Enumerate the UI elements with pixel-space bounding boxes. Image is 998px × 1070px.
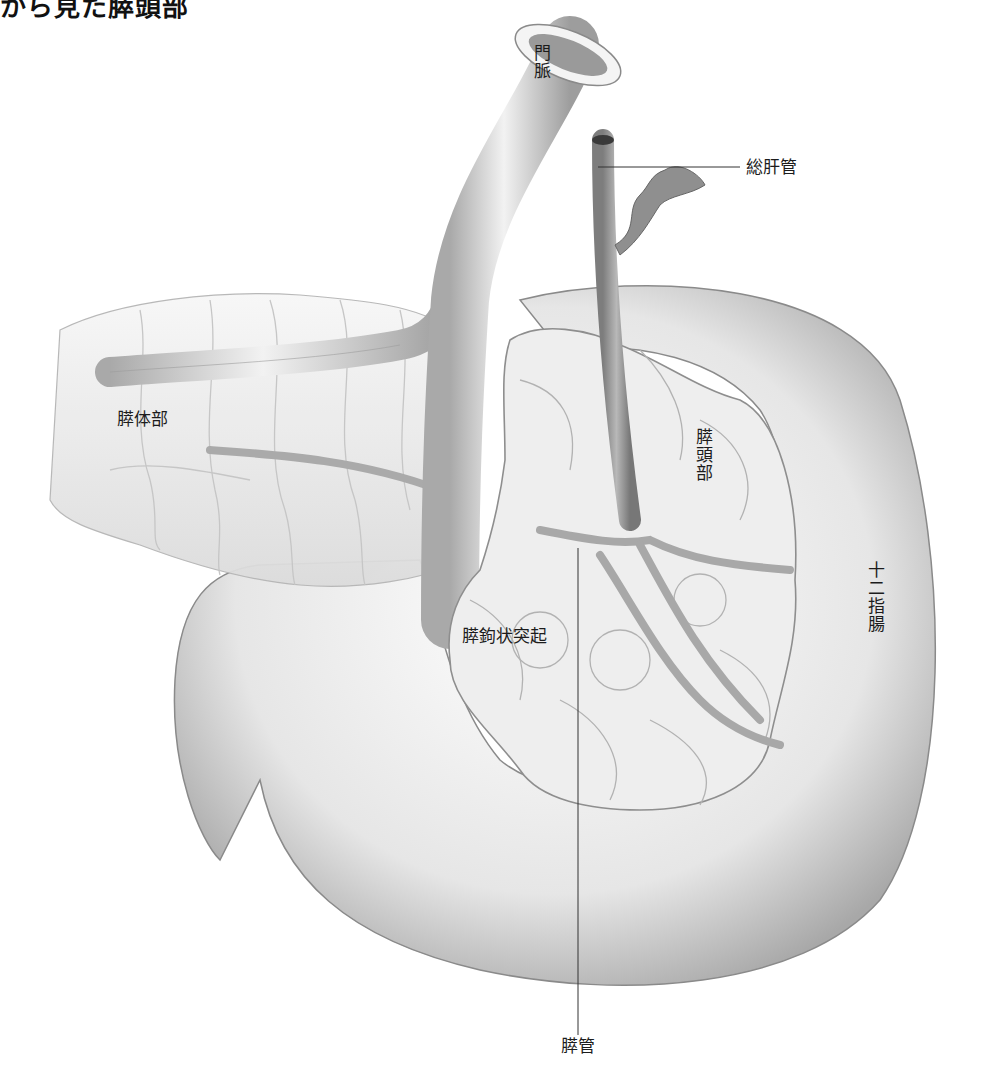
label-portal-vein: 門脈	[532, 44, 551, 80]
label-pancreatic-duct: 膵管	[561, 1037, 595, 1056]
label-pancreas-head: 膵頭部	[694, 428, 713, 482]
cystic-duct	[615, 167, 705, 255]
label-duodenum: 十二指腸	[866, 561, 885, 633]
duct-opening	[592, 135, 614, 145]
label-common-hepatic-duct: 総肝管	[746, 158, 797, 177]
pancreas-illustration	[0, 0, 998, 1070]
label-pancreas-body: 膵体部	[117, 410, 168, 429]
label-uncinate-process: 膵鉤状突起	[462, 627, 547, 646]
